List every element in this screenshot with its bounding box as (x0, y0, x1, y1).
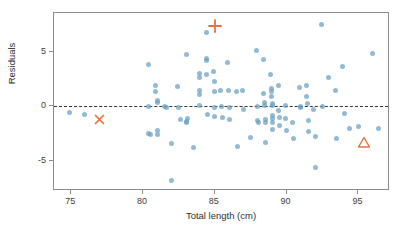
data-point (319, 22, 324, 27)
data-point (227, 105, 232, 110)
data-point (306, 118, 311, 123)
data-point (197, 103, 202, 108)
data-point (283, 116, 288, 121)
data-point (313, 165, 318, 170)
x-axis-tick-label: 80 (137, 196, 147, 206)
data-point (197, 92, 202, 97)
data-point (212, 114, 217, 119)
data-point (311, 107, 316, 112)
data-point (226, 88, 231, 93)
data-point (235, 144, 240, 149)
data-point (270, 127, 275, 132)
data-point (313, 134, 318, 139)
data-point (185, 116, 190, 121)
data-point (169, 178, 174, 183)
x-axis-tick (357, 190, 358, 194)
data-point (320, 104, 325, 109)
y-axis-label: Residuals (6, 19, 17, 109)
data-point (211, 69, 216, 74)
data-point (204, 72, 209, 77)
data-point (304, 83, 309, 88)
x-axis-tick (70, 190, 71, 194)
data-point (263, 120, 268, 125)
data-point (204, 58, 209, 63)
data-point (234, 89, 239, 94)
data-point (268, 72, 273, 77)
data-point (164, 105, 169, 110)
data-point (261, 91, 266, 96)
data-point (176, 105, 181, 110)
data-point (225, 60, 230, 65)
data-point (298, 105, 303, 110)
data-point (212, 105, 217, 110)
data-point (340, 64, 345, 69)
data-point (148, 132, 153, 137)
data-point (255, 104, 260, 109)
data-point (290, 120, 295, 125)
data-point (153, 89, 158, 94)
data-point (283, 103, 288, 108)
y-axis-tick-label: 5 (26, 46, 46, 56)
x-axis-tick (214, 190, 215, 194)
data-point (276, 108, 281, 113)
data-point (197, 75, 202, 80)
data-point (326, 75, 331, 80)
data-point (347, 126, 352, 131)
data-point (269, 89, 274, 94)
data-point (254, 48, 259, 53)
data-point (227, 117, 232, 122)
y-axis-tick-label: -5 (26, 155, 46, 165)
data-point (248, 135, 253, 140)
data-point (263, 140, 268, 145)
x-axis-label: Total length (cm) (53, 210, 389, 221)
x-axis-tick (286, 190, 287, 194)
data-point (191, 145, 196, 150)
data-point (333, 88, 338, 93)
y-axis-tick-label: 0 (26, 100, 46, 110)
data-point (256, 120, 261, 125)
data-point (376, 126, 381, 131)
x-axis-tick-label: 90 (281, 196, 291, 206)
data-point (205, 112, 210, 117)
data-point (220, 115, 225, 120)
data-point (82, 112, 87, 117)
data-point (155, 100, 160, 105)
data-point (334, 136, 339, 141)
data-point (178, 117, 183, 122)
data-point (276, 83, 281, 88)
plus-marker (208, 19, 222, 32)
data-point (306, 129, 311, 134)
y-axis-tick (49, 105, 53, 106)
x-axis-tick-label: 95 (352, 196, 362, 206)
x-axis-tick (142, 190, 143, 194)
scatter-plot-figure: Residuals Total length (cm) 758085909550… (0, 0, 405, 234)
data-point (270, 120, 275, 125)
data-point (219, 104, 224, 109)
data-point (241, 107, 246, 112)
x-axis-tick-label: 75 (65, 196, 75, 206)
data-point (146, 104, 151, 109)
data-point (342, 111, 347, 116)
data-point (184, 120, 189, 125)
cross-marker (93, 113, 107, 126)
y-axis-tick (49, 160, 53, 161)
x-axis-tick-label: 85 (209, 196, 219, 206)
y-axis-tick (49, 51, 53, 52)
data-point (146, 62, 151, 67)
plot-frame (53, 12, 389, 190)
data-point (284, 128, 289, 133)
data-point (184, 52, 189, 57)
data-point (212, 89, 217, 94)
plot-area (54, 13, 388, 189)
data-point (269, 94, 274, 99)
data-point (356, 124, 361, 129)
data-point (153, 83, 158, 88)
data-point (305, 101, 310, 106)
data-point (370, 51, 375, 56)
data-point (212, 79, 217, 84)
data-point (240, 88, 245, 93)
data-point (169, 141, 174, 146)
data-point (218, 88, 223, 93)
data-point (277, 123, 282, 128)
data-point (261, 57, 266, 62)
